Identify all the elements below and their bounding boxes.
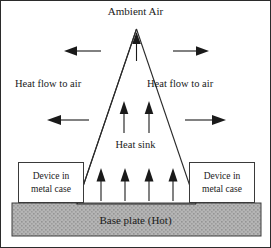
diagram-canvas (1, 1, 271, 248)
ambient-air-label: Ambient Air (1, 5, 270, 17)
up-arrow-icon-mid-2 (145, 101, 154, 133)
left-arrow-icon-lower (47, 115, 89, 125)
left-arrow-icon-upper (64, 46, 101, 55)
device-box-left: Device in metal case (18, 162, 84, 203)
heat-sink-label: Heat sink (1, 139, 270, 151)
up-arrow-icon-base-3 (145, 168, 154, 201)
heat-flow-right-label: Heat flow to air (147, 78, 262, 90)
device-right-line1: Device in (204, 170, 241, 182)
device-left-line2: metal case (31, 183, 71, 195)
up-arrow-icon-base-2 (121, 168, 130, 201)
base-plate-label: Base plate (Hot) (1, 214, 270, 226)
heat-flow-left-label: Heat flow to air (15, 78, 127, 90)
heat-sink-diagram: Ambient Air Heat flow to air Heat flow t… (0, 0, 271, 248)
right-arrow-icon-upper (173, 46, 209, 55)
up-arrow-icon-base-4 (169, 168, 178, 201)
up-arrow-icon-mid-1 (120, 101, 129, 133)
device-right-line2: metal case (202, 183, 242, 195)
up-arrow-icon-base-1 (97, 168, 106, 201)
right-arrow-icon-lower (185, 115, 226, 125)
device-left-line1: Device in (33, 170, 70, 182)
device-box-right: Device in metal case (189, 162, 255, 203)
